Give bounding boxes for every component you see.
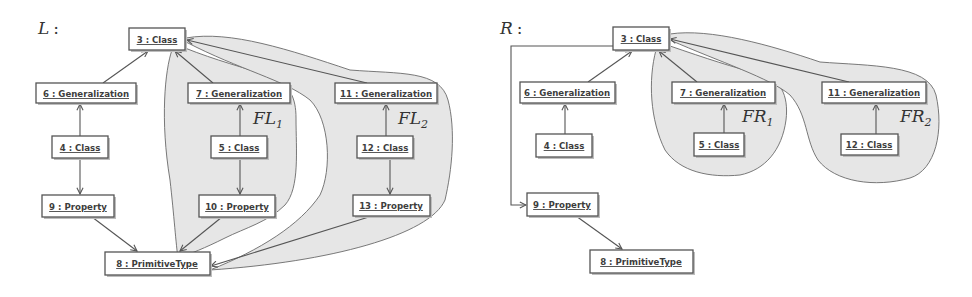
right-panel: R: FR1 FR2 3 : Class 6 : Generalization [499,18,939,275]
node-7-generalization[interactable]: 7 : Generalization [188,83,292,105]
node-r-11-generalization[interactable]: 11 : Generalization [822,82,928,105]
svg-text:12 : Class: 12 : Class [846,140,893,150]
node-r-8-primitivetype[interactable]: 8 : PrimitiveType [590,250,695,275]
node-13-property[interactable]: 13 : Property [353,195,432,218]
svg-text:7 : Generalization: 7 : Generalization [196,89,282,99]
svg-text:5 : Class: 5 : Class [699,140,740,150]
node-3-class[interactable]: 3 : Class [129,28,187,52]
svg-text:9 : Property: 9 : Property [533,200,591,210]
node-8-primitivetype[interactable]: 8 : PrimitiveType [105,252,212,277]
edge-r-9-8 [576,216,622,249]
edge-r-3-9 [511,46,613,205]
svg-text:8 : PrimitiveType: 8 : PrimitiveType [116,259,198,269]
svg-text:9 : Property: 9 : Property [49,202,107,212]
svg-text:7 : Generalization: 7 : Generalization [680,88,766,98]
left-panel: L: FL1 FL2 3 : Class 6 : Generalization [36,18,452,277]
svg-text:12 : Class: 12 : Class [362,143,409,153]
panel-label-left: L: [37,18,59,38]
node-r-5-class[interactable]: 5 : Class [694,133,746,158]
node-11-generalization[interactable]: 11 : Generalization [335,83,439,105]
node-12-class[interactable]: 12 : Class [357,136,415,160]
diagram-canvas: L: FL1 FL2 3 : Class 6 : Generalization [0,0,972,297]
node-9-property[interactable]: 9 : Property [42,195,116,219]
edge-6-3 [103,51,148,83]
svg-text:4 : Class: 4 : Class [544,141,585,151]
edge-r-6-3 [588,51,632,82]
node-r-7-generalization[interactable]: 7 : Generalization [672,82,777,105]
node-4-class[interactable]: 4 : Class [52,136,110,160]
svg-text:11 : Generalization: 11 : Generalization [828,88,920,98]
edge-9-8 [92,217,137,251]
node-r-4-class[interactable]: 4 : Class [536,134,594,159]
node-6-generalization[interactable]: 6 : Generalization [36,83,138,105]
svg-text:6 : Generalization: 6 : Generalization [524,88,610,98]
node-r-3-class[interactable]: 3 : Class [613,27,671,52]
svg-text:6 : Generalization: 6 : Generalization [43,89,129,99]
node-10-property[interactable]: 10 : Property [199,195,277,219]
panel-label-right: R: [499,18,523,38]
svg-text:8 : PrimitiveType: 8 : PrimitiveType [600,257,682,267]
svg-text:3 : Class: 3 : Class [621,34,662,44]
svg-text:5 : Class: 5 : Class [219,143,260,153]
svg-text:4 : Class: 4 : Class [60,143,101,153]
node-r-6-generalization[interactable]: 6 : Generalization [520,82,617,105]
svg-text:10 : Property: 10 : Property [205,202,269,212]
node-r-12-class[interactable]: 12 : Class [841,134,900,157]
node-5-class[interactable]: 5 : Class [211,136,269,160]
node-r-9-property[interactable]: 9 : Property [527,193,600,218]
svg-text:11 : Generalization: 11 : Generalization [340,89,432,99]
svg-text:13 : Property: 13 : Property [359,201,423,211]
svg-text:3 : Class: 3 : Class [137,35,178,45]
